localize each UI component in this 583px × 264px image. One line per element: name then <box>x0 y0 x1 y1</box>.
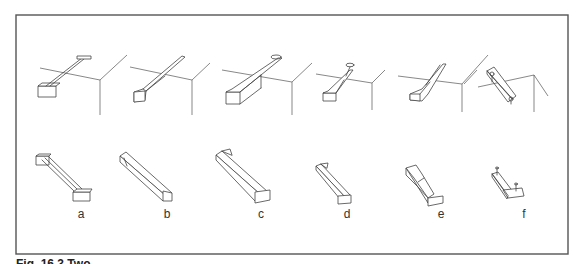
beam-b <box>120 152 172 201</box>
beam-installed-d <box>323 63 354 101</box>
panel-label-a: a <box>71 207 91 221</box>
figure-drawing <box>0 0 583 264</box>
panel-label-d: d <box>337 207 357 221</box>
panel-label-f: f <box>514 207 534 221</box>
beam-installed-e <box>410 64 446 101</box>
beam-a <box>36 154 92 201</box>
beam-f <box>492 167 524 199</box>
panel-label-e: e <box>431 207 451 221</box>
wall-corner-d <box>316 70 385 110</box>
figure-frame <box>16 15 568 254</box>
beam-e <box>406 165 443 206</box>
beam-d <box>316 163 351 204</box>
figure-caption: Fig. 16.3 Two... <box>16 257 100 264</box>
beam-installed-c <box>226 55 282 104</box>
panel-label-b: b <box>157 207 177 221</box>
wall-corner-e <box>398 55 488 112</box>
beam-c <box>216 149 270 203</box>
beam-installed-f <box>487 67 516 104</box>
panel-label-c: c <box>251 207 271 221</box>
beam-installed-b <box>134 56 185 102</box>
